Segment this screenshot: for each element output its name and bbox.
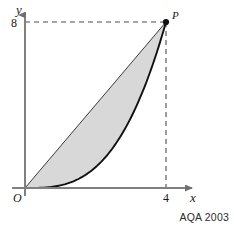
- figure-container: y x O 8 4 P AQA 2003: [0, 0, 234, 226]
- point-p-label: P: [171, 9, 179, 21]
- x-axis-label: x: [189, 190, 196, 205]
- origin-label: O: [13, 191, 22, 205]
- graph-canvas: y x O 8 4 P: [0, 0, 234, 226]
- x-tick-label-4: 4: [163, 191, 169, 205]
- attribution-caption: AQA 2003: [180, 211, 229, 223]
- point-p-marker: [163, 19, 169, 25]
- y-axis-label: y: [14, 2, 22, 17]
- y-tick-label-8: 8: [11, 16, 17, 30]
